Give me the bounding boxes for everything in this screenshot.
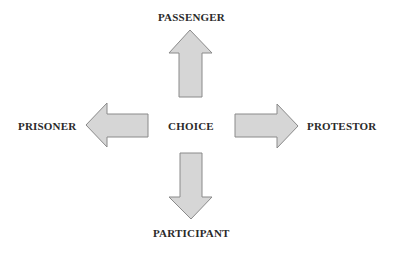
node-label-participant: PARTICIPANT	[153, 227, 230, 239]
arrow-right-icon	[235, 104, 298, 148]
arrow-up-icon	[169, 30, 212, 97]
arrow-down-icon	[169, 153, 212, 219]
center-label-choice: CHOICE	[168, 120, 214, 132]
node-label-prisoner: PRISONER	[18, 120, 76, 132]
choice-diagram: PASSENGER PRISONER CHOICE PROTESTOR PART…	[0, 0, 396, 253]
arrow-left-icon	[86, 103, 148, 147]
node-label-passenger: PASSENGER	[158, 11, 225, 23]
node-label-protestor: PROTESTOR	[307, 120, 376, 132]
